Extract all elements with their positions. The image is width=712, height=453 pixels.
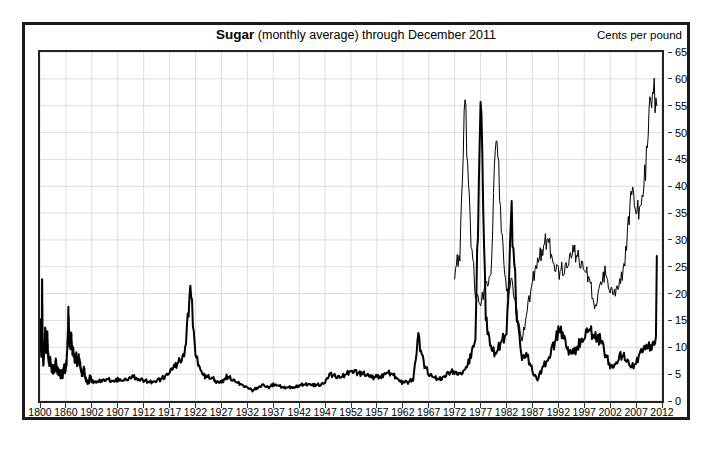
data-series-layer <box>40 78 657 391</box>
x-axis: 1800186019021907191219171922192719321937… <box>25 405 687 423</box>
plot-canvas <box>40 52 662 401</box>
x-axis-tick-label: 1942 <box>287 406 310 418</box>
x-axis-tick-label: 1977 <box>469 406 492 418</box>
y-axis-tick-mark <box>668 105 672 106</box>
x-axis-tick-label: 1947 <box>313 406 336 418</box>
x-axis-tick-label: 1922 <box>184 406 207 418</box>
y-axis-tick-mark <box>668 78 672 79</box>
x-axis-tick-label: 1962 <box>391 406 414 418</box>
y-axis-tick-mark <box>668 374 672 375</box>
y-axis-tick-label: 50 <box>675 127 687 139</box>
y-axis-tick-label: 55 <box>675 100 687 112</box>
x-axis-tick-label: 1937 <box>262 406 285 418</box>
y-axis-tick-mark <box>668 347 672 348</box>
y-axis-tick-label: 65 <box>675 46 687 58</box>
x-axis-tick-label: 1932 <box>236 406 259 418</box>
x-axis-tick-label: 1997 <box>573 406 596 418</box>
y-axis-unit-label: Cents per pound <box>597 29 682 41</box>
x-axis-tick-label: 1860 <box>54 406 77 418</box>
y-axis-tick-label: 35 <box>675 207 687 219</box>
x-axis-tick-label: 1952 <box>339 406 362 418</box>
x-axis-tick-label: 2007 <box>624 406 647 418</box>
x-axis-tick-label: 1992 <box>547 406 570 418</box>
y-axis-tick-label: 5 <box>675 368 681 380</box>
x-axis-tick-label: 1987 <box>521 406 544 418</box>
chart-frame: Sugar (monthly average) through December… <box>22 22 690 420</box>
y-axis-tick-mark <box>668 293 672 294</box>
y-axis-tick-mark <box>668 401 672 402</box>
chart-svg <box>40 52 662 401</box>
y-axis-tick-mark <box>668 52 672 53</box>
x-axis-tick-label: 1800 <box>28 406 51 418</box>
y-axis-tick-mark <box>668 132 672 133</box>
x-axis-tick-label: 2012 <box>650 406 673 418</box>
x-axis-tick-label: 2002 <box>598 406 621 418</box>
y-axis: 05101520253035404550556065 <box>668 50 692 403</box>
x-axis-tick-label: 1912 <box>132 406 155 418</box>
x-axis-tick-label: 1907 <box>106 406 129 418</box>
y-axis-tick-mark <box>668 320 672 321</box>
y-axis-tick-label: 40 <box>675 180 687 192</box>
y-axis-tick-label: 30 <box>675 234 687 246</box>
y-axis-tick-label: 15 <box>675 314 687 326</box>
series-line-nominal-price <box>40 102 657 391</box>
y-axis-tick-mark <box>668 266 672 267</box>
chart-header: Sugar (monthly average) through December… <box>25 25 687 48</box>
x-axis-tick-label: 1902 <box>80 406 103 418</box>
x-axis-tick-label: 1927 <box>210 406 233 418</box>
y-axis-tick-mark <box>668 213 672 214</box>
plot-area <box>38 50 664 403</box>
x-axis-tick-label: 1967 <box>417 406 440 418</box>
y-axis-tick-mark <box>668 239 672 240</box>
y-axis-tick-mark <box>668 186 672 187</box>
y-axis-tick-label: 25 <box>675 261 687 273</box>
x-axis-tick-label: 1957 <box>365 406 388 418</box>
y-axis-tick-label: 10 <box>675 341 687 353</box>
y-axis-tick-label: 45 <box>675 153 687 165</box>
x-axis-tick-label: 1982 <box>495 406 518 418</box>
y-axis-tick-label: 20 <box>675 288 687 300</box>
y-axis-tick-mark <box>668 159 672 160</box>
page-title: Sugar (monthly average) through December… <box>25 27 687 42</box>
chart-title-subtitle: (monthly average) through December 2011 <box>254 28 496 42</box>
y-axis-tick-label: 60 <box>675 73 687 85</box>
x-axis-tick-label: 1972 <box>443 406 466 418</box>
chart-title-commodity: Sugar <box>216 27 254 42</box>
x-axis-tick-label: 1917 <box>158 406 181 418</box>
